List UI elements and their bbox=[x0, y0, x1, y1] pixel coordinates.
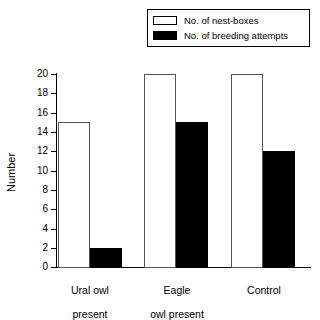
x-category-line1-ural-owl: Ural owl bbox=[71, 284, 109, 296]
bar-nest-boxes-control bbox=[231, 74, 263, 268]
bar-nest-boxes-eagle-owl bbox=[144, 74, 176, 268]
y-tick-label-0: 0 bbox=[42, 262, 48, 272]
y-tick-14 bbox=[51, 132, 56, 133]
x-category-line2-ural-owl: present bbox=[72, 308, 107, 320]
y-axis-title: Number bbox=[6, 143, 17, 203]
bar-breeding-attempts-control bbox=[263, 151, 295, 268]
y-tick-0 bbox=[51, 267, 56, 268]
y-tick-label-4: 4 bbox=[42, 224, 48, 234]
y-tick-label-6: 6 bbox=[42, 204, 48, 214]
bar-breeding-attempts-eagle-owl bbox=[176, 122, 208, 268]
x-category-label-control: Control bbox=[209, 272, 319, 296]
y-tick-label-20: 20 bbox=[37, 69, 48, 79]
y-tick-18 bbox=[51, 93, 56, 94]
y-tick-label-16: 16 bbox=[37, 108, 48, 118]
y-tick-label-12: 12 bbox=[37, 146, 48, 156]
y-axis-line bbox=[56, 73, 57, 268]
y-tick-20 bbox=[51, 74, 56, 75]
bar-nest-boxes-ural-owl bbox=[58, 122, 90, 268]
y-tick-16 bbox=[51, 113, 56, 114]
y-tick-10 bbox=[51, 171, 56, 172]
y-tick-label-14: 14 bbox=[37, 127, 48, 137]
y-tick-label-10: 10 bbox=[37, 166, 48, 176]
y-tick-label-2: 2 bbox=[42, 243, 48, 253]
y-tick-12 bbox=[51, 151, 56, 152]
y-tick-label-18: 18 bbox=[37, 88, 48, 98]
x-category-line1-control: Control bbox=[247, 284, 281, 296]
y-tick-label-8: 8 bbox=[42, 185, 48, 195]
y-tick-2 bbox=[51, 248, 56, 249]
x-category-line1-eagle-owl: Eagle bbox=[164, 284, 191, 296]
y-tick-6 bbox=[51, 209, 56, 210]
bar-breeding-attempts-ural-owl bbox=[90, 248, 122, 268]
y-tick-8 bbox=[51, 190, 56, 191]
y-tick-4 bbox=[51, 229, 56, 230]
x-category-line2-eagle-owl: owl present bbox=[150, 308, 204, 320]
